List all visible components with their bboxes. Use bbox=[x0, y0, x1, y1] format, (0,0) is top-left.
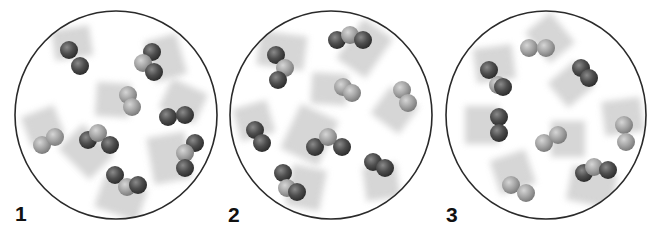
light-atom bbox=[46, 128, 64, 146]
dark-atom bbox=[145, 63, 163, 81]
light-atom bbox=[517, 184, 535, 202]
molecule bbox=[328, 19, 393, 79]
dark-atom bbox=[490, 124, 508, 142]
molecule bbox=[473, 44, 516, 96]
molecule bbox=[134, 33, 187, 82]
dark-atom bbox=[354, 31, 372, 49]
panel-label: 1 bbox=[15, 203, 27, 224]
dark-atom bbox=[490, 108, 508, 126]
dark-atom bbox=[60, 41, 78, 59]
diagram-canvas bbox=[0, 0, 656, 232]
panel-label: 2 bbox=[228, 204, 240, 225]
molecule bbox=[280, 104, 351, 166]
dark-atom bbox=[599, 161, 617, 179]
dark-atom bbox=[129, 176, 147, 194]
light-atom bbox=[399, 94, 417, 112]
molecule bbox=[95, 82, 141, 118]
light-atom bbox=[343, 84, 361, 102]
panel-3 bbox=[446, 11, 646, 219]
dark-atom bbox=[159, 108, 177, 126]
molecule bbox=[233, 100, 276, 152]
dark-atom bbox=[253, 134, 271, 152]
light-atom bbox=[123, 98, 141, 116]
molecule bbox=[371, 81, 419, 134]
light-atom bbox=[549, 126, 567, 144]
dark-atom bbox=[176, 106, 194, 124]
panel-1 bbox=[15, 11, 217, 222]
molecule bbox=[535, 121, 585, 157]
light-atom bbox=[615, 116, 633, 134]
molecule-diagram: 123 bbox=[0, 0, 656, 232]
molecule bbox=[548, 59, 598, 108]
molecule bbox=[146, 132, 204, 185]
molecule bbox=[21, 105, 65, 154]
dark-atom bbox=[376, 159, 394, 177]
molecule bbox=[465, 106, 508, 144]
molecule bbox=[159, 78, 208, 126]
dark-atom bbox=[176, 159, 194, 177]
molecule bbox=[520, 12, 575, 63]
dark-atom bbox=[333, 138, 351, 156]
dark-atom bbox=[288, 183, 306, 201]
dark-atom bbox=[580, 69, 598, 87]
dark-atom bbox=[269, 71, 287, 89]
molecule bbox=[51, 25, 93, 75]
molecule bbox=[94, 166, 148, 222]
molecule bbox=[256, 31, 307, 89]
dark-atom bbox=[71, 57, 89, 75]
panel-2 bbox=[230, 11, 432, 219]
molecule bbox=[274, 164, 327, 211]
molecule bbox=[566, 158, 618, 208]
molecule bbox=[490, 149, 536, 202]
panel-label: 3 bbox=[446, 204, 458, 225]
molecule bbox=[311, 72, 361, 105]
dark-atom bbox=[480, 61, 498, 79]
dark-atom bbox=[101, 136, 119, 154]
dark-atom bbox=[494, 78, 512, 96]
light-atom bbox=[617, 133, 635, 151]
molecule bbox=[601, 97, 644, 151]
molecule bbox=[362, 153, 400, 201]
light-atom bbox=[537, 39, 555, 57]
light-atom bbox=[520, 39, 538, 57]
